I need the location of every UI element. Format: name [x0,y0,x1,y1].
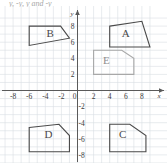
origin-label: 0 [73,92,77,101]
x-tick-label: -2 [58,92,64,101]
y-tick-label: 2 [71,70,75,79]
coordinate-plane-container: xy-8-6-4-224688642-2-4-6-80ABECD [0,6,167,163]
x-tick-label: -4 [42,92,48,101]
y-axis-arrow [75,10,80,15]
axis-names: xy [69,10,161,100]
graph-screenshot: y, -y, y and -y xy-8-6-4-224688642-2-4-6… [0,0,167,163]
y-tick-label: -8 [79,151,85,160]
x-tick-label: -8 [10,92,16,101]
y-tick-label: 8 [71,22,75,31]
shape-label-c: C [119,128,126,140]
coordinate-plane: xy-8-6-4-224688642-2-4-6-80ABECD [0,6,167,163]
shapes-layer: ABECD [29,21,150,151]
x-tick-label: 6 [124,92,128,101]
shape-label-e: E [103,54,110,66]
y-tick-label: -4 [79,119,85,128]
x-tick-label: 2 [92,92,96,101]
y-tick-label: -2 [79,102,85,111]
shape-label-d: D [45,128,53,140]
y-tick-label: 4 [71,54,75,63]
x-tick-label: 8 [140,92,144,101]
x-tick-label: -6 [26,92,32,101]
x-tick-label: 4 [108,92,112,101]
y-tick-label: -6 [79,135,85,144]
shape-polygon-e[interactable] [94,50,134,74]
shape-label-b: B [46,27,53,39]
y-axis-name: y [69,10,74,18]
shape-polygon-c[interactable] [110,124,146,151]
y-tick-label: 6 [71,38,75,47]
shape-label-a: A [122,27,130,39]
